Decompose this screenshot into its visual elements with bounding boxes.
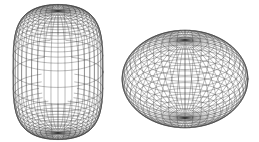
wireframe-figure bbox=[0, 0, 259, 142]
wireframe-grid-lines bbox=[13, 4, 103, 139]
figure-canvas bbox=[0, 0, 259, 142]
oblate-wireframe-shape bbox=[122, 30, 248, 128]
wireframe-grid-lines bbox=[122, 30, 248, 128]
prolate-wireframe-shape bbox=[13, 4, 103, 139]
